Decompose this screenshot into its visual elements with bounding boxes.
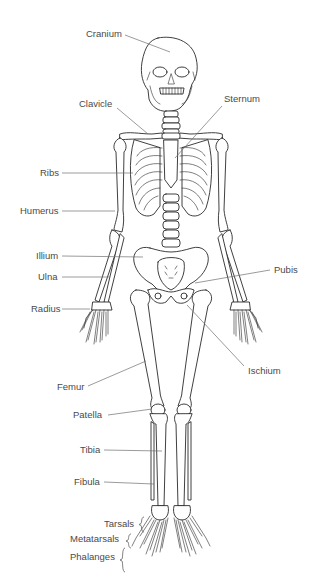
label-text-metatarsals: Metatarsals xyxy=(70,533,119,544)
skeleton-illustration xyxy=(80,37,262,556)
label-text-fibula: Fibula xyxy=(74,476,101,487)
label-text-ischium: Ischium xyxy=(248,365,281,376)
label-ulna: Ulna xyxy=(38,271,110,282)
label-text-clavicle: Clavicle xyxy=(79,98,112,109)
shoulder-girdle xyxy=(120,133,222,140)
label-clavicle: Clavicle xyxy=(79,98,148,134)
label-metatarsals: Metatarsals xyxy=(70,533,131,548)
label-text-illium: Illium xyxy=(36,250,58,261)
brace-icon-metatarsals xyxy=(126,534,131,548)
label-radius: Radius xyxy=(31,303,90,314)
label-text-sternum: Sternum xyxy=(224,93,260,104)
brace-icon-phalanges xyxy=(120,548,125,572)
label-text-radius: Radius xyxy=(31,303,61,314)
right-leg xyxy=(173,290,211,556)
label-text-femur: Femur xyxy=(57,381,84,392)
skeleton-diagram: CraniumClavicleSternumRibsHumerusIlliumU… xyxy=(0,0,312,576)
label-text-patella: Patella xyxy=(73,409,103,420)
label-illium: Illium xyxy=(36,250,143,261)
label-phalanges: Phalanges xyxy=(70,548,125,572)
label-patella: Patella xyxy=(73,409,152,420)
left-leg xyxy=(130,290,168,556)
lumbar-spine xyxy=(162,194,180,247)
label-text-tibia: Tibia xyxy=(80,444,101,455)
label-text-ulna: Ulna xyxy=(38,271,58,282)
left-arm xyxy=(80,138,126,344)
label-text-ribs: Ribs xyxy=(40,167,59,178)
label-pubis: Pubis xyxy=(195,264,298,283)
leader-line-patella xyxy=(108,409,152,415)
leader-line-femur xyxy=(88,361,146,386)
leader-line-clavicle xyxy=(117,108,148,134)
label-femur: Femur xyxy=(57,361,146,392)
skull xyxy=(141,37,197,111)
leader-line-illium xyxy=(62,256,143,257)
label-tibia: Tibia xyxy=(80,444,162,455)
label-text-cranium: Cranium xyxy=(86,28,122,39)
label-text-tarsals: Tarsals xyxy=(104,518,134,529)
right-arm xyxy=(216,138,262,344)
label-text-humerus: Humerus xyxy=(20,205,59,216)
label-humerus: Humerus xyxy=(20,205,115,216)
label-fibula: Fibula xyxy=(74,476,154,487)
label-tarsals: Tarsals xyxy=(104,517,144,532)
cervical-spine xyxy=(162,111,180,134)
leader-line-fibula xyxy=(104,482,154,484)
label-text-phalanges: Phalanges xyxy=(70,551,115,562)
label-text-pubis: Pubis xyxy=(274,264,298,275)
